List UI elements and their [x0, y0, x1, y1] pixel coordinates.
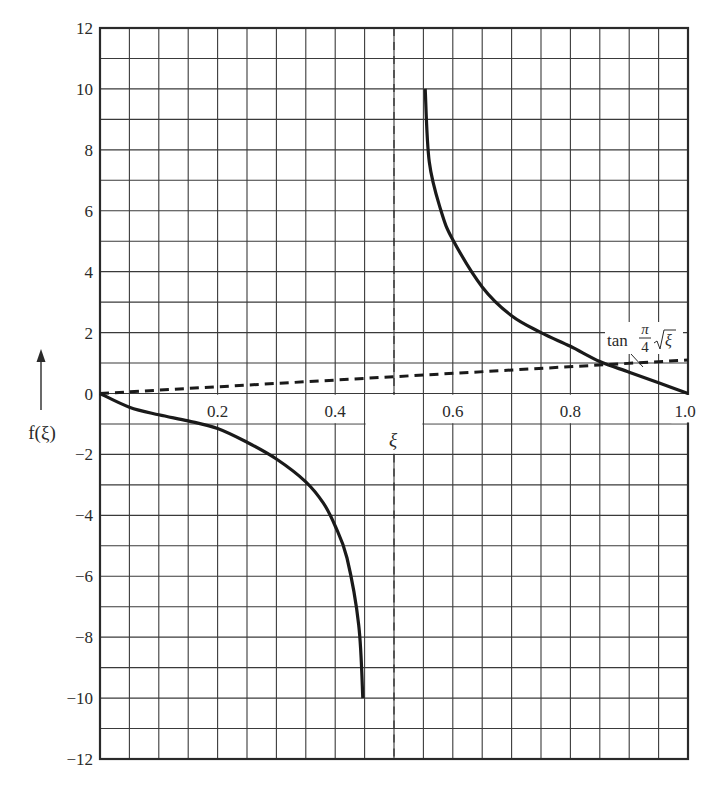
annotation-leader-line: [631, 354, 643, 367]
arrowhead-icon: [37, 349, 46, 362]
x-tick-labels: 0.20.40.60.81.0: [207, 402, 696, 421]
y-tick-label: 8: [85, 141, 94, 160]
x-tick-label: 0.4: [325, 402, 347, 421]
y-tick-label: −2: [75, 445, 93, 464]
y-tick-label: −12: [66, 750, 93, 769]
y-axis-label: f(ξ): [28, 422, 55, 444]
annotation-xi: ξ: [665, 332, 672, 349]
annotation-tan: tan: [607, 331, 628, 350]
x-tick-label: 0.6: [442, 402, 463, 421]
y-tick-label: −6: [75, 567, 93, 586]
y-tick-label: −10: [66, 689, 93, 708]
y-tick-label: −8: [75, 628, 93, 647]
y-tick-label: 10: [76, 80, 93, 99]
y-tick-label: 0: [85, 385, 94, 404]
y-tick-label: −4: [75, 506, 94, 525]
x-axis-label: ξ: [389, 429, 398, 450]
y-axis-label-group: f(ξ): [28, 349, 55, 444]
chart-canvas: 121086420−2−4−6−8−10−12 0.20.40.60.81.0 …: [0, 0, 725, 790]
x-tick-label: 0.8: [560, 402, 581, 421]
y-tick-label: 2: [85, 324, 94, 343]
y-tick-label: 4: [85, 263, 94, 282]
x-tick-label: 0.2: [207, 402, 228, 421]
x-tick-label: 1.0: [674, 402, 695, 421]
annotation-pi: π: [641, 321, 649, 337]
y-tick-labels: 121086420−2−4−6−8−10−12: [66, 19, 93, 769]
y-tick-label: 6: [85, 202, 94, 221]
annotation-four: 4: [641, 339, 649, 355]
y-tick-label: 12: [76, 19, 93, 38]
